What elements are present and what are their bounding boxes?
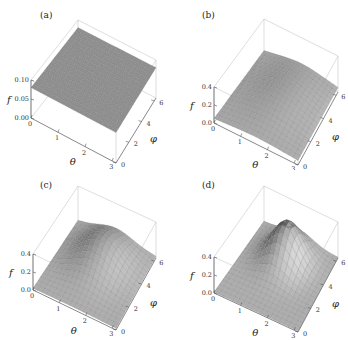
y-tick-label: 6 xyxy=(159,99,163,107)
y-tick-label: 0 xyxy=(121,328,125,336)
x-tick-label: 1 xyxy=(238,138,242,146)
x-axis-label: θ xyxy=(70,156,76,167)
y-tick-label: 2 xyxy=(316,306,320,314)
z-tick-label: 0.2 xyxy=(202,271,212,279)
x-axis-label: θ xyxy=(71,325,77,336)
x-tick-label: 3 xyxy=(109,330,113,338)
surface-plot-a: 0.000.050.1001230246fθφ xyxy=(0,0,174,170)
x-tick-label: 3 xyxy=(109,163,113,170)
y-axis-label: φ xyxy=(332,131,339,142)
y-tick-label: 0 xyxy=(303,163,307,170)
x-axis-label: θ xyxy=(252,159,258,170)
y-tick-label: 4 xyxy=(146,282,150,290)
y-axis-label: φ xyxy=(150,133,157,144)
panel-b: (b) 0.00.20.401230246fθφ xyxy=(174,0,348,170)
surface-plot-c: 0.00.20.401230246fθφ xyxy=(0,170,174,340)
x-tick-label: 2 xyxy=(264,152,268,160)
surface-plot-b: 0.00.20.401230246fθφ xyxy=(174,0,348,170)
z-tick-label: 0.2 xyxy=(21,268,31,276)
x-tick-label: 2 xyxy=(82,149,86,157)
y-tick-label: 4 xyxy=(328,117,332,125)
surface-plot-d: 0.00.20.401230246fθφ xyxy=(174,170,348,340)
z-tick-label: 0.00 xyxy=(15,114,29,122)
panel-c: (c) 0.00.20.401230246fθφ xyxy=(0,170,174,340)
x-tick-label: 0 xyxy=(211,295,215,303)
x-tick-label: 3 xyxy=(291,332,295,340)
x-tick-label: 0 xyxy=(211,125,215,133)
y-tick-label: 4 xyxy=(328,283,332,291)
surface xyxy=(31,28,156,133)
y-axis-label: φ xyxy=(150,297,157,308)
x-tick-label: 2 xyxy=(83,317,87,325)
z-axis-label: f xyxy=(6,94,13,105)
y-tick-label: 2 xyxy=(134,140,138,148)
z-axis-label: f xyxy=(189,100,196,111)
x-tick-label: 1 xyxy=(56,305,60,313)
z-tick-label: 0.4 xyxy=(202,83,212,91)
x-tick-label: 0 xyxy=(30,292,34,300)
y-tick-label: 2 xyxy=(134,305,138,313)
y-tick-label: 6 xyxy=(159,259,163,267)
y-tick-label: 6 xyxy=(341,93,345,101)
y-tick-label: 4 xyxy=(146,120,150,128)
x-tick-label: 1 xyxy=(55,134,59,142)
z-tick-label: 0.05 xyxy=(15,95,29,103)
z-tick-label: 0.2 xyxy=(202,101,212,109)
x-tick-label: 2 xyxy=(264,320,268,328)
panel-a: (a) 0.000.050.1001230246fθφ xyxy=(0,0,174,170)
x-axis-label: θ xyxy=(252,327,258,338)
z-axis-label: f xyxy=(8,267,15,278)
z-axis-label: f xyxy=(189,270,196,281)
y-tick-label: 6 xyxy=(341,259,345,267)
z-tick-label: 0.4 xyxy=(21,250,31,258)
z-tick-label: 0.4 xyxy=(202,253,212,261)
y-tick-label: 0 xyxy=(303,330,307,338)
panel-d: (d) 0.00.20.401230246fθφ xyxy=(174,170,348,340)
y-tick-label: 0 xyxy=(121,161,125,169)
z-tick-label: 0.10 xyxy=(15,76,29,84)
x-tick-label: 0 xyxy=(28,120,32,128)
y-axis-label: φ xyxy=(332,298,339,309)
y-tick-label: 2 xyxy=(316,140,320,148)
x-tick-label: 1 xyxy=(238,307,242,315)
